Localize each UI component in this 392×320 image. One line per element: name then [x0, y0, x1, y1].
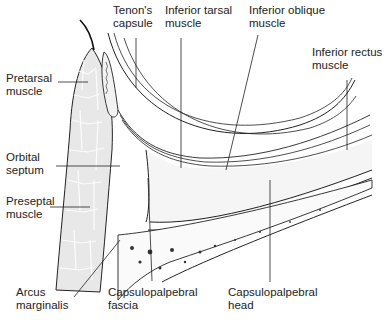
label-orbital-septum: Orbital septum — [6, 151, 44, 177]
label-capsulopalpebral-fascia: Capsulopalpebral fascia — [108, 286, 198, 312]
label-arcus-marginalis: Arcus marginalis — [16, 286, 68, 312]
eyelid-anatomy-diagram: Tenon's capsule Inferior tarsal muscle I… — [0, 0, 392, 320]
label-inferior-rectus-muscle: Inferior rectus muscle — [312, 46, 382, 72]
label-preseptal-muscle: Preseptal muscle — [6, 195, 55, 221]
label-pretarsal-muscle: Pretarsal muscle — [6, 72, 52, 98]
label-inferior-tarsal-muscle: Inferior tarsal muscle — [165, 4, 232, 30]
label-capsulopalpebral-head: Capsulopalpebral head — [228, 286, 318, 312]
eyelash — [80, 20, 94, 50]
label-tenons-capsule: Tenon's capsule — [113, 4, 153, 30]
label-inferior-oblique-muscle: Inferior oblique muscle — [249, 4, 325, 30]
